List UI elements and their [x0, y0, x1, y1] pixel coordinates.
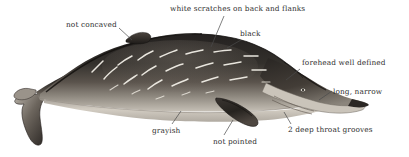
- eye-pupil: [302, 89, 304, 91]
- flank-shading: [102, 40, 258, 92]
- whale-diagram-figure: white scratches on back and flanks not c…: [0, 0, 409, 157]
- label-forehead-well-defined: forehead well defined: [302, 58, 386, 67]
- label-white-scratches: white scratches on back and flanks: [170, 4, 305, 13]
- leader-not-concaved: [119, 28, 132, 40]
- tail-fluke: [15, 94, 46, 145]
- label-long-narrow: long, narrow: [333, 87, 382, 96]
- label-grayish: grayish: [152, 126, 180, 135]
- label-not-pointed: not pointed: [213, 137, 257, 146]
- label-throat-grooves: 2 deep throat grooves: [288, 125, 373, 134]
- label-not-concaved: not concaved: [66, 20, 117, 29]
- label-black: black: [240, 29, 261, 38]
- leader-not-pointed: [224, 120, 233, 135]
